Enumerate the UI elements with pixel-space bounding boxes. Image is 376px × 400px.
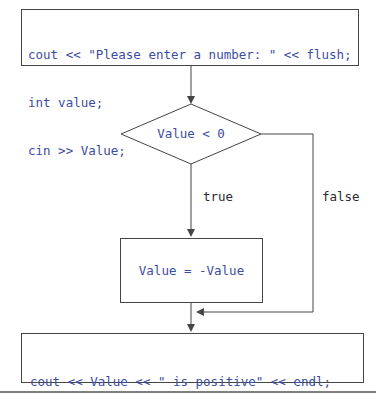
- code-line: cout << "Please enter a number: " << flu…: [28, 47, 358, 63]
- arrowhead-into-bottom-box: [187, 324, 195, 332]
- arrowhead-into-process-box: [187, 229, 195, 237]
- false-branch-label: false: [322, 189, 360, 205]
- output-code-box: cout << Value << " is positive" << endl;…: [21, 333, 364, 383]
- process-box-text: Value = -Value: [139, 263, 244, 279]
- code-line: cin >> Value;: [28, 143, 358, 159]
- code-line: int value;: [28, 95, 358, 111]
- process-box: Value = -Value: [120, 238, 263, 303]
- true-branch-label: true: [203, 189, 233, 205]
- page-separator-rule: [0, 391, 376, 393]
- flowchart-diagram: cout << "Please enter a number: " << flu…: [0, 0, 376, 400]
- decision-condition-label: Value < 0: [121, 126, 261, 142]
- code-line: cout << Value << " is positive" << endl;: [30, 374, 363, 390]
- arrowhead-false-merge: [196, 308, 204, 316]
- input-code-box: cout << "Please enter a number: " << flu…: [21, 9, 359, 66]
